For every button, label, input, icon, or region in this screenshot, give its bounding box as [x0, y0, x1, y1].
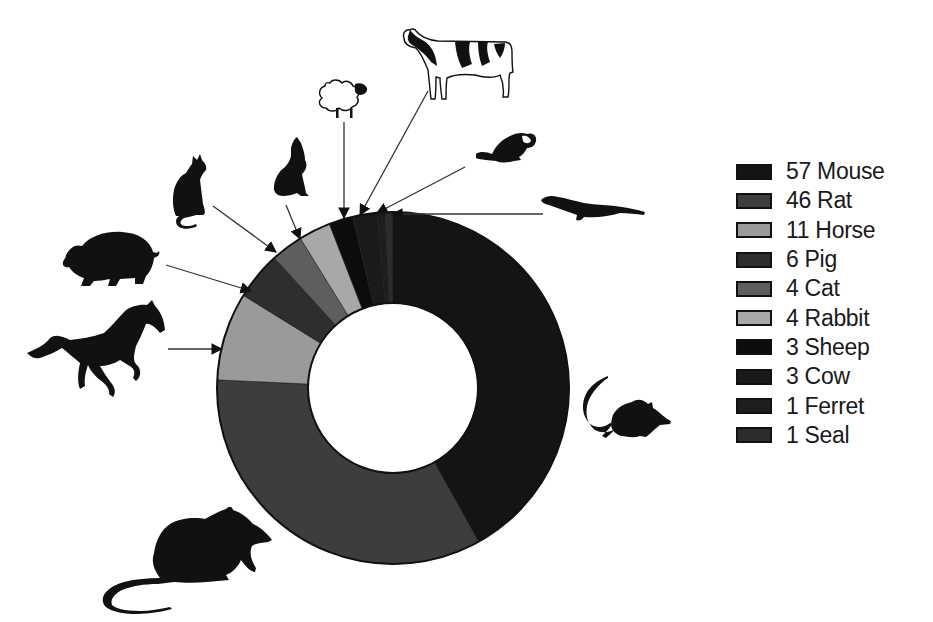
legend-swatch	[736, 398, 772, 414]
legend-label: 11 Horse	[786, 219, 875, 242]
legend-item: 4 Rabbit	[736, 303, 885, 332]
legend-label: 46 Rat	[786, 189, 852, 212]
rabbit-icon	[274, 137, 309, 196]
legend-swatch	[736, 281, 772, 297]
legend-label: 3 Sheep	[786, 336, 870, 359]
legend-swatch	[736, 222, 772, 238]
legend-item: 1 Ferret	[736, 391, 885, 420]
legend-item: 6 Pig	[736, 245, 885, 274]
arrow-cat	[213, 206, 276, 252]
arrow-pig	[166, 265, 251, 291]
legend-swatch	[736, 339, 772, 355]
cat-icon	[173, 154, 206, 229]
donut-slices	[217, 212, 569, 564]
legend-swatch	[736, 164, 772, 180]
legend-label: 1 Seal	[786, 424, 849, 447]
legend-item: 57 Mouse	[736, 157, 885, 186]
legend-label: 57 Mouse	[786, 160, 885, 183]
legend-swatch	[736, 193, 772, 209]
legend-item: 11 Horse	[736, 216, 885, 245]
legend-label: 4 Cat	[786, 277, 839, 300]
legend-item: 4 Cat	[736, 274, 885, 303]
legend-item: 46 Rat	[736, 186, 885, 215]
pig-icon	[63, 232, 160, 286]
legend-swatch	[736, 427, 772, 443]
horse-icon	[27, 300, 165, 397]
legend-swatch	[736, 369, 772, 385]
arrow-ferret	[377, 167, 465, 213]
legend-swatch	[736, 252, 772, 268]
legend-label: 4 Rabbit	[786, 307, 869, 330]
ring-outline	[308, 303, 478, 473]
legend-item: 3 Sheep	[736, 333, 885, 362]
rat-icon	[103, 507, 272, 614]
ferret-icon	[476, 133, 536, 163]
legend-label: 6 Pig	[786, 248, 837, 271]
legend: 57 Mouse 46 Rat 11 Horse 6 Pig 4 Cat 4 R…	[736, 157, 885, 450]
arrow-rabbit	[286, 205, 300, 239]
mouse-icon	[583, 376, 671, 438]
legend-label: 1 Ferret	[786, 395, 864, 418]
legend-label: 3 Cow	[786, 365, 850, 388]
legend-item: 1 Seal	[736, 421, 885, 450]
arrow-cow	[360, 91, 428, 215]
seal-icon	[541, 196, 645, 220]
sheep-icon	[319, 80, 367, 118]
legend-swatch	[736, 310, 772, 326]
cow-icon	[403, 29, 513, 99]
legend-item: 3 Cow	[736, 362, 885, 391]
